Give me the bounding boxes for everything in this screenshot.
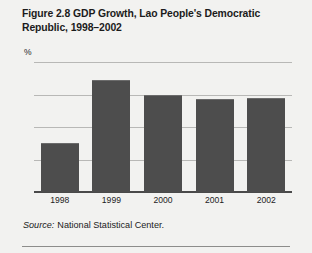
bottom-divider [22, 246, 290, 247]
source-text: National Statistical Center. [57, 220, 164, 230]
bar [144, 95, 182, 193]
bar [92, 80, 130, 192]
figure-number: Figure 2.8 [22, 8, 70, 19]
figure-title: Figure 2.8GDP Growth, Lao People's Democ… [22, 7, 297, 35]
x-tick-label: 1999 [86, 195, 138, 205]
source-label: Source: [23, 220, 54, 230]
x-tick-label: 2000 [137, 195, 189, 205]
bar [247, 98, 285, 192]
bar [41, 143, 79, 192]
x-tick-label: 2002 [240, 195, 292, 205]
bar-series [34, 62, 292, 192]
y-axis-unit-label: % [24, 47, 32, 57]
bar [196, 99, 234, 192]
source-note: Source:National Statistical Center. [23, 219, 164, 231]
x-tick-label: 2001 [189, 195, 241, 205]
x-tick-label: 1998 [34, 195, 86, 205]
plot-area: 02468 19981999200020012002 [34, 62, 292, 192]
figure-panel: Figure 2.8GDP Growth, Lao People's Democ… [0, 0, 312, 253]
